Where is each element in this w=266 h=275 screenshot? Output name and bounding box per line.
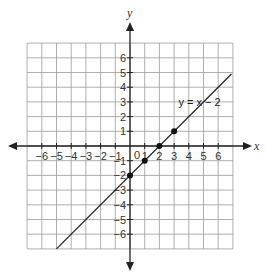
data-point bbox=[171, 128, 177, 134]
x-tick-label: 2 bbox=[156, 150, 162, 162]
y-tick-label: 5 bbox=[120, 67, 126, 79]
y-axis-up-arrow-icon bbox=[126, 22, 134, 31]
y-axis-label: y bbox=[126, 6, 133, 20]
x-tick-label: −3 bbox=[80, 150, 93, 162]
y-tick-label: −4 bbox=[113, 199, 126, 211]
data-point bbox=[127, 172, 133, 178]
y-tick-label: 6 bbox=[120, 52, 126, 64]
y-tick-label: 4 bbox=[120, 81, 126, 93]
x-tick-label: −2 bbox=[94, 150, 107, 162]
x-tick-label: −5 bbox=[50, 150, 63, 162]
y-tick-label: 1 bbox=[120, 125, 126, 137]
x-tick-label: 6 bbox=[215, 150, 221, 162]
x-tick-label: 4 bbox=[186, 150, 192, 162]
y-tick-label: −6 bbox=[113, 228, 126, 240]
x-tick-label: 5 bbox=[200, 150, 206, 162]
y-tick-label: 3 bbox=[120, 96, 126, 108]
coordinate-plane: −6−5−4−3−2−1123456−6−5−4−3−2−1123456 x y… bbox=[0, 0, 266, 275]
axes bbox=[8, 22, 252, 271]
x-axis-label: x bbox=[253, 139, 260, 153]
x-axis-left-arrow-icon bbox=[8, 142, 17, 150]
x-axis-right-arrow-icon bbox=[243, 142, 252, 150]
x-tick-label: 3 bbox=[171, 150, 177, 162]
y-tick-label: −5 bbox=[113, 214, 126, 226]
data-point bbox=[142, 158, 148, 164]
y-tick-label: 2 bbox=[120, 111, 126, 123]
y-tick-label: −1 bbox=[113, 155, 126, 167]
origin-label: 0 bbox=[134, 149, 140, 161]
y-tick-label: −2 bbox=[113, 169, 126, 181]
x-tick-label: −4 bbox=[65, 150, 78, 162]
y-axis-down-arrow-icon bbox=[126, 262, 134, 271]
data-point bbox=[156, 143, 162, 149]
x-tick-label: −6 bbox=[36, 150, 49, 162]
equation-label: y = x − 2 bbox=[179, 96, 221, 108]
